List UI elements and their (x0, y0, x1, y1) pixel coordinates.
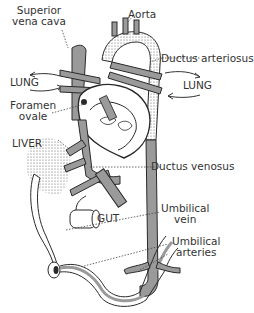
label-lung-left: LUNG (10, 77, 39, 88)
label-superior-vena-cava: Superior vena cava (12, 5, 66, 27)
label-umbilical-arteries-line2: arteries (172, 247, 220, 258)
label-foramen-ovale-line2: ovale (10, 111, 56, 122)
label-umbilical-vein-line2: vein (161, 214, 209, 225)
label-liver: LIVER (12, 138, 42, 149)
label-ductus-venosus: Ductus venosus (151, 161, 234, 172)
label-lung-right: LUNG (183, 80, 212, 91)
fetal-circulation-diagram (0, 0, 254, 313)
gut (70, 196, 100, 228)
umbilicus (48, 262, 60, 278)
label-gut: GUT (97, 213, 119, 224)
cut-vessel (95, 169, 126, 208)
label-foramen-ovale: Foramen ovale (10, 100, 56, 122)
label-superior-vena-cava-line2: vena cava (12, 16, 66, 27)
label-umbilical-arteries: Umbilical arteries (172, 236, 220, 258)
label-aorta: Aorta (128, 9, 156, 20)
umbilical-arteries (60, 236, 178, 306)
aortic-branches (112, 18, 139, 36)
label-ductus-arteriosus: Ductus arteriosus (161, 53, 254, 64)
label-umbilical-vein: Umbilical vein (161, 203, 209, 225)
